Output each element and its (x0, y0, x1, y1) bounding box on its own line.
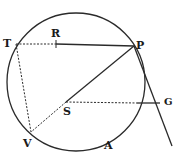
segment-S-V (31, 102, 66, 132)
label-G: G (164, 97, 173, 107)
label-R: R (51, 28, 60, 39)
diagram-canvas: T R P S V G A (0, 0, 180, 161)
label-A: A (104, 140, 113, 151)
label-S: S (63, 106, 71, 117)
label-P: P (136, 40, 144, 51)
label-T: T (3, 38, 11, 49)
segment-P-S (66, 46, 134, 102)
segment-S-G-dashed (66, 102, 137, 103)
label-V: V (23, 138, 32, 149)
circle (7, 13, 145, 151)
segment-R-P (56, 44, 134, 46)
